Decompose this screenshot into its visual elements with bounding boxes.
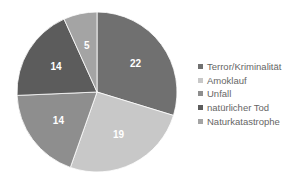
legend-swatch bbox=[198, 105, 203, 110]
data-label: 14 bbox=[53, 115, 65, 126]
legend-swatch bbox=[198, 64, 203, 69]
legend-swatch bbox=[198, 119, 203, 124]
legend-swatch bbox=[198, 78, 203, 83]
legend: Terror/Kriminalität Amoklauf Unfall natü… bbox=[198, 60, 281, 128]
data-label: 14 bbox=[51, 61, 63, 72]
legend-swatch bbox=[198, 91, 203, 96]
legend-item-naturkatastrophe: Naturkatastrophe bbox=[198, 114, 281, 128]
data-label: 5 bbox=[84, 40, 90, 51]
legend-label: Naturkatastrophe bbox=[207, 116, 280, 127]
legend-item-terror: Terror/Kriminalität bbox=[198, 60, 281, 74]
legend-item-amoklauf: Amoklauf bbox=[198, 74, 281, 88]
data-label: 22 bbox=[130, 58, 142, 69]
legend-label: Amoklauf bbox=[207, 75, 247, 86]
legend-label: Terror/Kriminalität bbox=[207, 61, 281, 72]
legend-item-unfall: Unfall bbox=[198, 87, 281, 101]
legend-label: Unfall bbox=[207, 88, 231, 99]
legend-item-natuerlicher-tod: natürlicher Tod bbox=[198, 101, 281, 115]
legend-label: natürlicher Tod bbox=[207, 102, 269, 113]
data-label: 19 bbox=[113, 129, 125, 140]
pie-chart: 221914145 bbox=[0, 0, 200, 182]
